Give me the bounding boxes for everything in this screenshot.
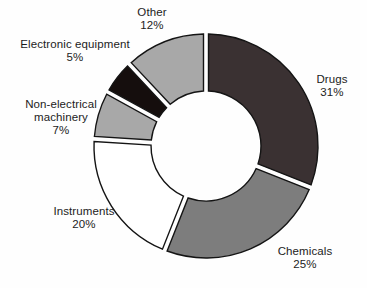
slice-label-text: Instruments [44, 205, 124, 218]
slice-pct-text: 12% [112, 19, 192, 32]
donut-chart-figure: Other 12% Electronic equipment 5% Non-el… [0, 0, 367, 288]
slice-pct-text: 5% [9, 51, 141, 64]
slice-label-instruments: Instruments 20% [44, 205, 124, 231]
slice-pct-text: 7% [11, 124, 111, 137]
slice-pct-text: 25% [265, 258, 345, 271]
slice-label-non-electrical-machinery: Non-electrical machinery 7% [11, 98, 111, 137]
slice-drugs [209, 34, 319, 185]
slice-label-other: Other 12% [112, 6, 192, 32]
slice-label-text: Other [112, 6, 192, 19]
slice-label-text: Drugs [302, 73, 362, 86]
slice-label-text: Electronic equipment [9, 38, 141, 51]
slice-label-electronic-equipment: Electronic equipment 5% [9, 38, 141, 64]
slice-instruments [94, 141, 183, 249]
slice-label-text: Chemicals [265, 245, 345, 258]
slice-label-text: Non-electrical machinery [11, 98, 111, 124]
slice-label-chemicals: Chemicals 25% [265, 245, 345, 271]
slice-label-drugs: Drugs 31% [302, 73, 362, 99]
slice-pct-text: 20% [44, 218, 124, 231]
slice-pct-text: 31% [302, 86, 362, 99]
